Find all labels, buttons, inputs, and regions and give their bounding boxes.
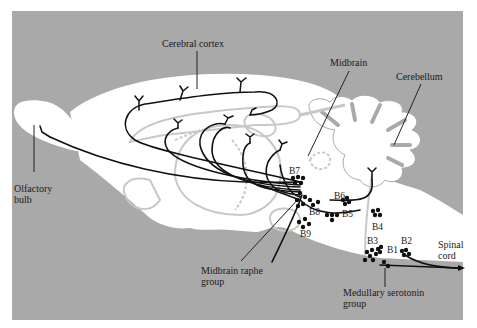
label-cerebral-cortex: Cerebral cortex — [162, 38, 224, 49]
label-spinal-cord-line2: cord — [438, 250, 456, 261]
label-medullary-line2: group — [343, 298, 366, 309]
nucleus-label-b3: B3 — [367, 236, 378, 246]
nucleus-label-b1: B1 — [387, 245, 398, 255]
label-olfactory-bulb-line2: bulb — [14, 194, 32, 205]
label-cerebellum: Cerebellum — [396, 71, 443, 82]
label-spinal-cord-line1: Spinal — [438, 239, 464, 250]
nucleus-label-b2: B2 — [401, 236, 412, 246]
label-medullary-line1: Medullary serotonin — [343, 287, 424, 298]
nucleus-label-b6: B6 — [334, 191, 345, 201]
nucleus-label-b9: B9 — [300, 229, 311, 239]
brain-diagram — [0, 0, 477, 328]
label-olfactory-bulb-line1: Olfactory — [14, 183, 52, 194]
label-midbrain-raphe-line1: Midbrain raphe — [201, 265, 263, 276]
nucleus-label-b8: B8 — [309, 207, 320, 217]
nucleus-label-b7: B7 — [289, 166, 300, 176]
label-midbrain-raphe-line2: group — [201, 276, 224, 287]
label-midbrain: Midbrain — [330, 57, 367, 68]
nucleus-label-b5: B5 — [342, 209, 353, 219]
nucleus-label-b4: B4 — [372, 222, 383, 232]
